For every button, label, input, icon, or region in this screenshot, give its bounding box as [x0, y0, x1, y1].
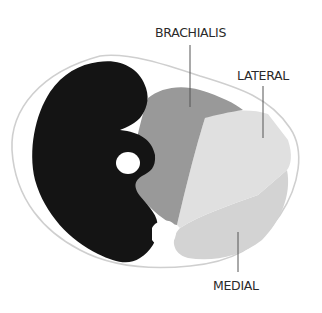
lateral-label: LATERAL [237, 68, 289, 83]
medial-label: MEDIAL [213, 278, 259, 293]
brachialis-label: BRACHIALIS [155, 25, 226, 40]
cross-section-diagram [0, 0, 322, 313]
humerus-bone [116, 152, 140, 174]
